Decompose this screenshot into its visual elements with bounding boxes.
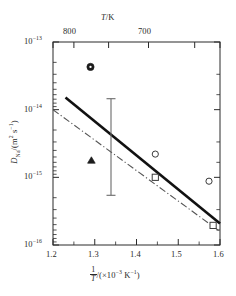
y-tick-mantissa-16: 10: [24, 239, 33, 249]
x-tick-label-4: 1.5: [171, 250, 182, 259]
top-axis-title: T/K: [101, 13, 115, 22]
y-tick-exponent-16: −16: [33, 238, 42, 244]
y-tick-label-16: 10−16: [24, 240, 42, 249]
top-axis-ticks: [53, 42, 220, 48]
y-tick-label-13: 10−13: [24, 37, 42, 46]
top-tick-label-700: 700: [138, 27, 151, 36]
marker-filled-circle-dot: [87, 63, 94, 70]
marker-open-circle-mid: [152, 151, 158, 157]
y-axis-title-close: ): [9, 120, 19, 123]
y-tick-label-14: 10−14: [24, 105, 42, 114]
bottom-axis-ticks: [53, 239, 220, 245]
y-axis-title-symbol: D: [9, 157, 19, 163]
y-axis-title-subscript: Na: [15, 150, 21, 157]
y-tick-mantissa-13: 10: [24, 36, 33, 46]
x-tick-label-1: 1.2: [46, 250, 57, 259]
plot-frame: [53, 42, 220, 245]
top-axis-title-plain: /K: [106, 12, 115, 22]
y-tick-label-15: 10−15: [24, 172, 42, 181]
x-axis-title-suffix-post: ): [137, 270, 140, 280]
y-axis-title: DNa/(m2 s−1): [9, 120, 19, 163]
x-axis-title: 1 T /(×10−3 K−1): [90, 267, 140, 284]
y-tick-exponent-15: −15: [33, 170, 42, 176]
y-axis-title-mid: /(m: [9, 138, 19, 150]
x-tick-label-5: 1.6: [213, 250, 224, 259]
x-tick-label-2: 1.3: [88, 250, 99, 259]
marker-open-square-right: [210, 222, 216, 228]
marker-filled-triangle: [88, 157, 96, 163]
y-axis-title-wrapper: DNa/(m2 s−1): [3, 92, 21, 192]
series-dashdot-fit: [53, 110, 220, 232]
y-axis-title-exp1: 2: [8, 135, 14, 138]
y-axis-title-mid2: s: [9, 130, 19, 136]
left-axis-ticks: [53, 42, 59, 245]
y-axis-title-exp2: −1: [8, 123, 14, 129]
marker-open-square-mid: [152, 174, 158, 180]
x-axis-fraction: 1 T: [90, 266, 97, 283]
x-tick-label-3: 1.4: [130, 250, 141, 259]
figure-container: T/K 800 700 10−13 10−14 10−15 10−16 1.2 …: [0, 0, 236, 296]
top-tick-label-800: 800: [63, 27, 76, 36]
y-tick-mantissa-14: 10: [24, 104, 33, 114]
marker-open-circle-right: [206, 178, 212, 184]
y-tick-exponent-14: −14: [33, 103, 42, 109]
error-bar: [107, 99, 116, 196]
y-tick-exponent-13: −13: [33, 35, 42, 41]
x-axis-fraction-numerator: 1: [90, 266, 97, 274]
x-axis-fraction-denominator: T: [90, 274, 97, 283]
y-tick-mantissa-15: 10: [24, 171, 33, 181]
x-axis-title-suffix-pre: /(×10: [97, 270, 116, 280]
series-solid-fit: [66, 98, 221, 224]
right-axis-ticks: [214, 42, 220, 245]
